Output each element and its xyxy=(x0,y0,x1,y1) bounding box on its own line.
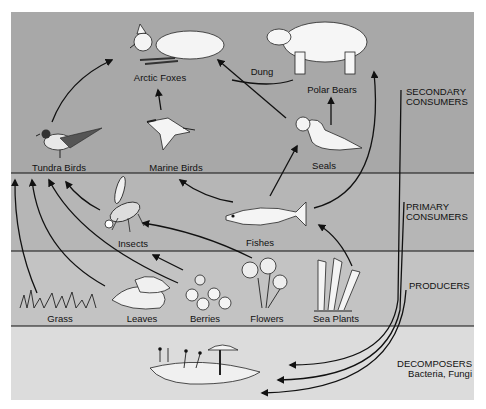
level-label-decomposers: DECOMPOSERS Bacteria, Fungi xyxy=(394,359,472,379)
secondary-consumers-band xyxy=(11,12,474,173)
label-seals: Seals xyxy=(312,161,336,171)
producers-band xyxy=(11,251,474,326)
label-dung: Dung xyxy=(251,67,274,77)
level-label-primary-consumers: PRIMARY CONSUMERS xyxy=(406,202,468,222)
label-flowers: Flowers xyxy=(250,314,283,324)
level-label-secondary-consumers: SECONDARY CONSUMERS xyxy=(406,87,468,107)
label-berries: Berries xyxy=(190,314,220,324)
label-fishes: Fishes xyxy=(246,238,274,248)
label-polar-bears: Polar Bears xyxy=(307,85,357,95)
label-grass: Grass xyxy=(47,314,72,324)
label-marine-birds: Marine Birds xyxy=(149,163,202,173)
food-web-diagram: Arctic Foxes Polar Bears Dung Tundra Bir… xyxy=(0,0,486,409)
label-arctic-foxes: Arctic Foxes xyxy=(134,73,186,83)
label-leaves: Leaves xyxy=(127,314,158,324)
level-label-producers: PRODUCERS xyxy=(409,281,470,291)
label-sea-plants: Sea Plants xyxy=(313,314,359,324)
label-insects: Insects xyxy=(118,239,148,249)
label-tundra-birds: Tundra Birds xyxy=(32,163,86,173)
